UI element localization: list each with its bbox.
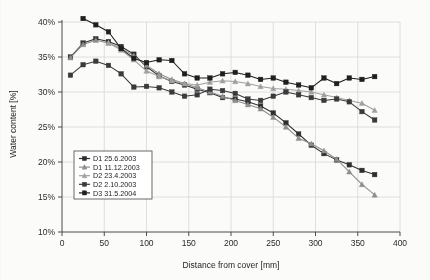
data-point: [195, 93, 200, 98]
y-tick-label: 25%: [38, 122, 55, 132]
data-point: [246, 73, 251, 78]
legend-marker: [82, 191, 86, 195]
y-axis-ticks: 10%15%20%25%30%35%40%: [38, 17, 62, 237]
data-point: [81, 62, 86, 67]
data-point: [144, 84, 149, 89]
data-point: [284, 80, 289, 85]
data-point: [220, 72, 225, 77]
water-content-line-chart: 050100150200250300350400 10%15%20%25%30%…: [0, 0, 430, 280]
chart-figure: 050100150200250300350400 10%15%20%25%30%…: [0, 0, 430, 280]
data-point: [347, 163, 352, 168]
x-axis-title: Distance from cover [mm]: [183, 260, 280, 270]
data-point: [296, 83, 301, 88]
data-point: [347, 76, 352, 81]
y-tick-label: 35%: [38, 52, 55, 62]
data-point: [94, 23, 99, 28]
data-point: [309, 95, 314, 100]
data-point: [94, 59, 99, 64]
x-axis-ticks: 050100150200250300350400: [60, 232, 408, 248]
data-point: [119, 72, 124, 77]
data-point: [208, 76, 213, 81]
data-point: [208, 87, 213, 92]
data-point: [119, 46, 124, 51]
data-point: [258, 98, 263, 103]
data-point: [81, 16, 86, 21]
data-point: [372, 172, 377, 177]
x-tick-label: 250: [266, 238, 280, 248]
x-tick-label: 150: [182, 238, 196, 248]
data-point: [220, 88, 225, 93]
data-point: [372, 74, 377, 79]
y-axis-title: Water content [%]: [8, 90, 18, 157]
series-line: [83, 19, 375, 88]
data-point: [182, 72, 187, 77]
data-point: [271, 94, 276, 99]
data-point: [360, 109, 365, 114]
x-tick-label: 300: [308, 238, 322, 248]
legend-label: D3 31.5.2004: [93, 189, 136, 198]
data-point: [296, 93, 301, 98]
data-point: [360, 77, 365, 82]
data-point: [321, 148, 326, 153]
y-tick-label: 40%: [38, 17, 55, 27]
data-point: [284, 90, 289, 95]
x-tick-label: 100: [139, 238, 153, 248]
data-point: [372, 118, 377, 123]
data-point: [170, 58, 175, 63]
data-point: [322, 76, 327, 81]
data-point: [246, 97, 251, 102]
data-point: [68, 73, 73, 78]
data-point: [182, 94, 187, 99]
x-tick-label: 50: [100, 238, 110, 248]
data-point: [132, 56, 137, 61]
data-point: [170, 90, 175, 95]
series-4: [68, 59, 377, 122]
data-point: [372, 108, 377, 113]
data-point: [309, 86, 314, 91]
data-point: [195, 76, 200, 81]
data-point: [360, 168, 365, 173]
x-tick-label: 400: [393, 238, 407, 248]
legend-marker: [82, 182, 86, 186]
chart-legend: D1 25.6.2003D1 11.12.2003D2 23.4.2003D2 …: [74, 151, 152, 199]
x-tick-label: 350: [351, 238, 365, 248]
data-point: [258, 77, 263, 82]
data-point: [334, 81, 339, 86]
data-point: [233, 91, 238, 96]
data-point: [334, 97, 339, 102]
data-point: [144, 60, 149, 65]
x-tick-label: 200: [224, 238, 238, 248]
y-tick-label: 30%: [38, 87, 55, 97]
data-point: [106, 63, 111, 68]
y-tick-label: 20%: [38, 157, 55, 167]
data-point: [106, 30, 111, 35]
data-point: [233, 70, 238, 75]
data-point: [271, 76, 276, 81]
gridlines: [62, 22, 400, 232]
data-point: [322, 98, 327, 103]
y-tick-label: 15%: [38, 192, 55, 202]
x-tick-label: 0: [60, 238, 65, 248]
data-point: [347, 100, 352, 105]
data-point: [157, 86, 162, 91]
legend-marker: [82, 156, 86, 160]
y-tick-label: 10%: [38, 227, 55, 237]
data-point: [132, 85, 137, 90]
data-point: [157, 58, 162, 63]
